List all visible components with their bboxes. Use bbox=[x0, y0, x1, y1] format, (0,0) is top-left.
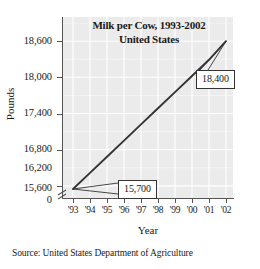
annotation-callout-end: 18,400 bbox=[196, 70, 235, 89]
chart-title-line2: United States bbox=[66, 33, 232, 47]
y-tick-label: 0 bbox=[0, 195, 52, 206]
y-tick-mark bbox=[57, 77, 63, 78]
y-tick-mark bbox=[57, 41, 63, 42]
y-tick-label: 18,600 bbox=[0, 36, 52, 47]
chart-figure: 18,600 18,000 17,400 16,800 16,200 15,60… bbox=[0, 0, 260, 269]
y-axis-title: Pounds bbox=[4, 69, 16, 139]
chart-title-line1: Milk per Cow, 1993-2002 bbox=[66, 19, 232, 33]
y-tick-label: 16,800 bbox=[0, 144, 52, 155]
x-tick-mark bbox=[73, 198, 74, 203]
x-tick-mark bbox=[209, 198, 210, 203]
y-tick-mark bbox=[57, 186, 63, 187]
x-tick-mark bbox=[226, 198, 227, 203]
y-tick-label: 15,600 bbox=[0, 183, 52, 194]
x-tick-label: '02 bbox=[215, 205, 237, 215]
x-tick-mark bbox=[192, 198, 193, 203]
x-tick-mark bbox=[107, 198, 108, 203]
x-tick-mark bbox=[175, 198, 176, 203]
x-axis-title: Year bbox=[63, 224, 233, 236]
annotation-callout-start: 15,700 bbox=[118, 180, 157, 199]
y-axis-break-icon bbox=[55, 186, 71, 202]
x-tick-mark bbox=[158, 198, 159, 203]
y-axis-line bbox=[62, 17, 63, 198]
y-tick-mark bbox=[57, 114, 63, 115]
y-tick-mark bbox=[57, 150, 63, 151]
source-note: Source: United States Department of Agri… bbox=[12, 248, 193, 259]
y-tick-label: 16,200 bbox=[0, 163, 52, 174]
x-tick-mark bbox=[90, 198, 91, 203]
chart-title: Milk per Cow, 1993-2002 United States bbox=[66, 19, 232, 46]
